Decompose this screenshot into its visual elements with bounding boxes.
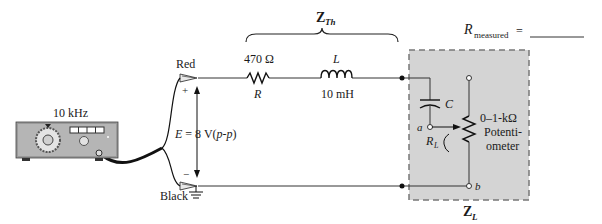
resistor-icon: 470 Ω R — [244, 52, 274, 101]
inductor-icon: L 10 mH — [321, 52, 354, 101]
svg-text:Potenti-: Potenti- — [484, 125, 522, 139]
top-wire — [198, 78, 430, 100]
svg-text:R: R — [425, 134, 434, 148]
zth-brace: Z Th — [246, 10, 398, 42]
svg-text:R: R — [253, 87, 262, 101]
svg-text:10 mH: 10 mH — [321, 87, 354, 101]
junction-dot-bottom — [400, 184, 405, 189]
svg-text:Red: Red — [176, 57, 195, 71]
ground-icon — [189, 186, 203, 198]
svg-text:ometer: ometer — [486, 139, 519, 153]
svg-text:Th: Th — [325, 17, 336, 27]
svg-text:Black: Black — [160, 189, 188, 203]
display-icon — [70, 127, 104, 133]
r-measured-label: R measured = — [463, 22, 584, 40]
svg-text:R: R — [463, 22, 473, 37]
amplitude-knob-icon — [80, 137, 89, 146]
svg-text:10 kHz: 10 kHz — [53, 106, 88, 120]
svg-text:L: L — [332, 52, 340, 66]
svg-text:C: C — [445, 97, 454, 111]
svg-text:+: + — [182, 84, 188, 96]
svg-text:a: a — [417, 121, 423, 133]
power-led-icon — [107, 136, 109, 138]
svg-text:0–1-kΩ: 0–1-kΩ — [480, 111, 517, 125]
svg-text:Z: Z — [316, 10, 325, 25]
function-generator: 10 kHz — [16, 106, 118, 161]
circuit-diagram: R measured = Z Th Z L 470 Ω R L 10 mH — [0, 0, 602, 224]
junction-dot-top — [400, 76, 405, 81]
svg-text:−: − — [183, 168, 189, 180]
zl-label: Z L — [463, 204, 478, 222]
svg-text:L: L — [471, 212, 478, 222]
svg-text:E = 8 V(p-p): E = 8 V(p-p) — [174, 127, 237, 141]
svg-text:b: b — [475, 180, 481, 192]
svg-text:=: = — [516, 24, 523, 38]
svg-text:Z: Z — [463, 204, 472, 219]
svg-text:470 Ω: 470 Ω — [244, 52, 274, 66]
svg-text:measured: measured — [474, 30, 509, 40]
svg-text:L: L — [433, 141, 439, 150]
output-jack-icon — [96, 150, 102, 156]
voltage-label: E = 8 V(p-p) — [174, 127, 237, 141]
